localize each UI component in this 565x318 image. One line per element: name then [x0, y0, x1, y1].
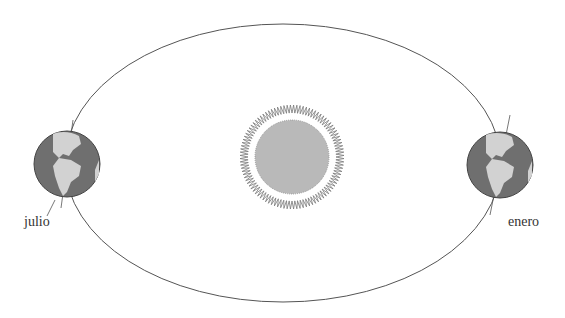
january-label: enero [508, 214, 539, 230]
earth-july [34, 120, 100, 208]
orbit-diagram [0, 0, 565, 318]
sun [240, 105, 344, 209]
sun-core [255, 120, 329, 194]
july-label: julio [24, 214, 50, 230]
earth-january [467, 115, 533, 215]
